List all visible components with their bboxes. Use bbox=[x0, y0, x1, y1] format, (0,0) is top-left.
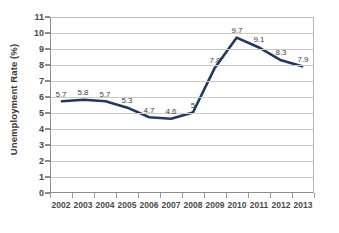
gridline bbox=[51, 33, 313, 34]
x-tick-mark bbox=[138, 193, 139, 198]
x-tick-label: 2009 bbox=[206, 200, 225, 210]
x-tick-mark bbox=[50, 193, 51, 198]
gridline bbox=[51, 129, 313, 130]
y-tick-label: 10 bbox=[24, 28, 44, 38]
y-tick-label: 11 bbox=[24, 12, 44, 22]
data-point-label: 5 bbox=[191, 101, 195, 110]
y-tick-label: 1 bbox=[24, 172, 44, 182]
y-tick-label: 8 bbox=[24, 60, 44, 70]
x-tick-label: 2007 bbox=[162, 200, 181, 210]
y-tick-label: 0 bbox=[24, 188, 44, 198]
data-point-label: 5.8 bbox=[77, 88, 88, 97]
gridline bbox=[51, 97, 313, 98]
series-line-unemployment-rate bbox=[51, 17, 313, 192]
x-tick-label: 2010 bbox=[228, 200, 247, 210]
y-tick-label: 4 bbox=[24, 124, 44, 134]
x-tick-label: 2002 bbox=[52, 200, 71, 210]
data-point-label: 4.7 bbox=[143, 106, 154, 115]
x-tick-mark bbox=[226, 193, 227, 198]
data-point-label: 8.3 bbox=[275, 48, 286, 57]
y-tick-label: 2 bbox=[24, 156, 44, 166]
series-polyline bbox=[62, 38, 302, 119]
gridline bbox=[51, 161, 313, 162]
x-tick-label: 2004 bbox=[96, 200, 115, 210]
data-point-label: 5.7 bbox=[55, 90, 66, 99]
gridline bbox=[51, 113, 313, 114]
data-point-label: 7.9 bbox=[297, 55, 308, 64]
x-axis-tick-marks bbox=[50, 193, 314, 199]
x-tick-mark bbox=[116, 193, 117, 198]
data-point-label: 5.3 bbox=[121, 96, 132, 105]
x-tick-mark bbox=[182, 193, 183, 198]
x-tick-mark bbox=[160, 193, 161, 198]
x-tick-label: 2013 bbox=[294, 200, 313, 210]
gridline bbox=[51, 65, 313, 66]
gridline bbox=[51, 17, 313, 18]
data-point-label: 4.6 bbox=[165, 107, 176, 116]
x-tick-mark bbox=[270, 193, 271, 198]
y-axis-title: Unemployment Rate (%) bbox=[4, 3, 22, 196]
unemployment-rate-line-chart: Unemployment Rate (%) 01234567891011 5.7… bbox=[0, 0, 339, 233]
x-tick-label: 2011 bbox=[250, 200, 268, 210]
x-tick-label: 2006 bbox=[140, 200, 159, 210]
x-tick-label: 2008 bbox=[184, 200, 203, 210]
gridline bbox=[51, 145, 313, 146]
data-point-label: 9.1 bbox=[253, 35, 264, 44]
x-axis-tick-labels: 2002200320042005200620072008200920102011… bbox=[50, 200, 314, 216]
y-tick-label: 5 bbox=[24, 108, 44, 118]
y-tick-label: 7 bbox=[24, 76, 44, 86]
x-tick-mark bbox=[204, 193, 205, 198]
x-tick-mark bbox=[94, 193, 95, 198]
data-point-label: 5.7 bbox=[99, 90, 110, 99]
y-tick-label: 3 bbox=[24, 140, 44, 150]
x-tick-label: 2012 bbox=[272, 200, 291, 210]
data-point-label: 9.7 bbox=[231, 26, 242, 35]
x-tick-mark bbox=[314, 193, 315, 198]
data-point-label: 7.8 bbox=[209, 56, 220, 65]
x-tick-label: 2003 bbox=[74, 200, 93, 210]
x-tick-mark bbox=[292, 193, 293, 198]
y-axis-tick-labels: 01234567891011 bbox=[22, 17, 44, 193]
x-tick-mark bbox=[72, 193, 73, 198]
y-tick-label: 9 bbox=[24, 44, 44, 54]
gridline bbox=[51, 81, 313, 82]
gridline bbox=[51, 177, 313, 178]
x-tick-mark bbox=[248, 193, 249, 198]
y-tick-label: 6 bbox=[24, 92, 44, 102]
plot-area bbox=[50, 17, 314, 193]
gridline bbox=[51, 49, 313, 50]
x-tick-label: 2005 bbox=[118, 200, 137, 210]
